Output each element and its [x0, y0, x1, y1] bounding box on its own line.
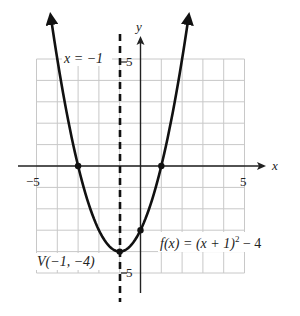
symmetry-line-label: x = −1 — [63, 51, 103, 66]
x-axis-label: x — [271, 158, 278, 173]
x-min-tick-label: −5 — [26, 174, 40, 189]
y-max-tick-label: 5 — [126, 54, 133, 69]
point-marker — [117, 248, 123, 254]
vertex-label: V(−1, −4) — [37, 254, 95, 270]
point-marker — [75, 163, 81, 169]
function-label: f(x) = (x + 1)2 − 4 — [160, 234, 261, 252]
point-marker — [158, 163, 164, 169]
function-label-tail: − 4 — [239, 236, 261, 251]
point-marker — [137, 227, 143, 233]
y-axis-label: y — [134, 19, 142, 34]
parabola-graph: y x −5 5 5 5 x = −1 V(−1, −4) f(x) = (x … — [0, 0, 300, 316]
x-max-tick-label: 5 — [240, 174, 247, 189]
y-min-tick-label: 5 — [126, 265, 133, 280]
function-label-main: f(x) = (x + 1) — [160, 236, 235, 252]
